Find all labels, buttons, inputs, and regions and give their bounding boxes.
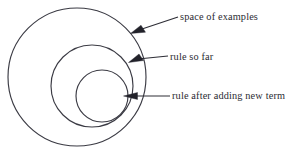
annotation-label-space-of-examples: space of examples xyxy=(180,12,258,22)
leader-rule-so-far xyxy=(129,54,169,63)
leader-space-of-examples xyxy=(131,17,179,34)
inner-circle-rule-after-adding-new-term xyxy=(76,70,128,122)
outer-circle-space-of-examples xyxy=(8,8,146,146)
annotation-label-rule-so-far: rule so far xyxy=(170,52,213,62)
nested-circles-svg xyxy=(0,0,300,154)
diagram-canvas: space of examples rule so far rule after… xyxy=(0,0,300,154)
annotation-label-rule-after-adding-new-term: rule after adding new term xyxy=(172,91,285,101)
